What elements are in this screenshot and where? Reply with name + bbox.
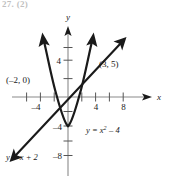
y-tick-label-minus8: –8 <box>52 151 63 161</box>
line-equation-label: y = x + 2 <box>5 152 39 162</box>
y-tick-label-4: 4 <box>57 56 62 66</box>
x-tick-label-4: 4 <box>94 102 99 112</box>
x-tick-label-minus4: –4 <box>31 102 42 112</box>
parabola-label-exponent: 2 <box>104 125 107 131</box>
parabola-label-suffix: – 4 <box>108 125 120 135</box>
parabola-label-prefix: y = x <box>85 125 104 135</box>
parabola-equation-label: y = x2– 4 <box>85 125 120 135</box>
y-tick-label-minus4: –4 <box>52 122 63 132</box>
graph-figure: 27. (2) <box>0 0 178 185</box>
x-tick-label-8: 8 <box>121 102 126 112</box>
problem-number-label: 27. (2) <box>2 0 28 9</box>
intersection-label-right: (3, 5) <box>99 59 119 69</box>
svg-text:y = x2– 4: y = x2– 4 <box>85 125 120 135</box>
x-axis-label: x <box>156 92 161 102</box>
y-axis-label: y <box>65 12 70 22</box>
coordinate-plane-svg: –4 4 8 4 –4 –8 x y y = x2– 4 <box>0 0 178 185</box>
intersection-label-left: (–2, 0) <box>6 75 30 85</box>
